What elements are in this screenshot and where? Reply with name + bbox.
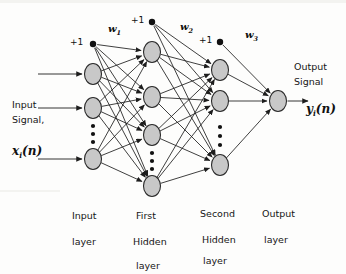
ellipsis-dot-first-hidden-layer-0 [150, 151, 154, 155]
weight-label-1: w1 [108, 24, 121, 37]
edge-l1-n3-to-l2-n2 [161, 168, 210, 183]
bias-label-first-hidden-layer: +1 [131, 16, 144, 25]
layer-caption-output-line1: Output [262, 209, 295, 219]
layer-caption-first-hidden-line2: Hidden [133, 237, 167, 247]
input-signal-label-line2: Signal, [12, 115, 44, 125]
input-signal-math: xi(n) [12, 145, 42, 160]
neuron-input-layer-0 [85, 64, 102, 85]
weight-3-base: w [245, 29, 254, 40]
ellipsis-dot-input-layer-1 [91, 132, 95, 136]
ellipsis-dot-second-hidden-layer-2 [218, 143, 222, 147]
weight-1-base: w [108, 23, 117, 34]
edge-l1-n2-to-l2-n2 [160, 139, 210, 161]
layer-caption-input-line2: layer [72, 237, 96, 247]
bias-label-second-hidden-layer: +1 [199, 36, 212, 45]
neuron-first-hidden-layer-1 [144, 87, 161, 108]
weight-1-subscript: 1 [117, 29, 122, 37]
weight-2-base: w [180, 21, 189, 32]
layer-caption-output-line2: layer [264, 235, 288, 245]
layer-caption-first-hidden-line3: layer [136, 261, 160, 271]
output-signal-math: yi(n) [306, 103, 336, 118]
neuron-input-layer-1 [85, 98, 102, 119]
edge-l2-n2-to-l3-n0 [226, 109, 271, 158]
neuron-input-layer-2 [85, 149, 102, 170]
edge-l1-n1-to-l2-n2 [158, 103, 212, 157]
ellipsis-dot-second-hidden-layer-1 [218, 134, 222, 138]
neuron-second-hidden-layer-0 [212, 60, 229, 81]
bias-label-input-layer: +1 [70, 38, 83, 47]
bias-node-input-layer [90, 41, 96, 47]
edge-group [95, 24, 271, 183]
neural-network-diagram: Input Signal, xi(n) Output Signal yi(n) … [0, 0, 346, 274]
edge-l0-n1-to-l1-n0 [100, 60, 144, 102]
neuron-second-hidden-layer-1 [212, 91, 229, 112]
layer-caption-input-line1: Input [72, 211, 97, 221]
edge-l1-n0-to-l2-n1 [159, 57, 211, 94]
edge-l1-n1-to-l2-n1 [161, 98, 209, 101]
bias-edge-l0-to-l1-n0 [97, 45, 141, 51]
edge-l0-n2-to-l1-n3 [101, 163, 142, 182]
output-math-base: y [306, 102, 313, 116]
layer-caption-second-hidden-line1: Second [200, 209, 235, 219]
output-signal-label-line1: Output [294, 62, 327, 72]
edge-l1-n3-to-l2-n1 [158, 110, 214, 179]
weight-label-3: w3 [245, 30, 258, 43]
input-signal-label-line1: Input [12, 100, 37, 110]
bias-edge-l2-to-l3-n0 [223, 45, 270, 93]
bias-node-second-hidden-layer [217, 39, 223, 45]
ellipsis-dot-second-hidden-layer-0 [218, 125, 222, 129]
neuron-first-hidden-layer-3 [144, 176, 161, 197]
output-math-tail: (n) [316, 102, 336, 116]
network-graphics [0, 0, 346, 274]
edge-l0-n0-to-l1-n2 [99, 80, 144, 127]
weight-label-2: w2 [180, 22, 193, 35]
edge-l0-n0-to-l1-n0 [101, 56, 141, 71]
neuron-first-hidden-layer-0 [144, 42, 161, 63]
weight-3-subscript: 3 [254, 35, 259, 43]
edge-l0-n2-to-l1-n0 [97, 62, 146, 151]
bias-node-first-hidden-layer [149, 19, 155, 25]
output-signal-label-line2: Signal [294, 77, 323, 87]
ellipsis-dot-input-layer-2 [91, 140, 95, 144]
edge-l1-n2-to-l2-n1 [160, 106, 210, 131]
weight-2-subscript: 2 [189, 27, 194, 35]
layer-caption-first-hidden-line1: First [136, 211, 156, 221]
neuron-second-hidden-layer-2 [212, 155, 229, 176]
ellipsis-dot-first-hidden-layer-2 [150, 167, 154, 171]
bias-edge-l0-to-l1-n2 [95, 48, 146, 126]
ellipsis-dot-input-layer-0 [91, 124, 95, 128]
ellipsis-dot-first-hidden-layer-1 [150, 159, 154, 163]
neuron-output-layer-0 [270, 91, 287, 112]
bias-edge-l0-to-l1-n3 [95, 48, 148, 176]
edge-l1-n3-to-l2-n0 [157, 79, 215, 178]
neuron-first-hidden-layer-2 [144, 125, 161, 146]
layer-caption-second-hidden-line2: Hidden [202, 235, 236, 245]
input-math-tail: (n) [22, 144, 42, 158]
layer-caption-second-hidden-line3: layer [203, 256, 227, 266]
